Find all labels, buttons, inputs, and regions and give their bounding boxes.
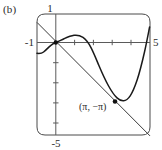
origin-marker-dot — [54, 40, 58, 44]
y-axis-bottom-label: -5 — [51, 137, 61, 149]
x-axis-right-label: 5 — [153, 36, 159, 48]
curve-series — [37, 27, 150, 101]
intersection-point-label: (π, −π) — [79, 101, 106, 113]
intersection-marker-dot — [113, 99, 118, 104]
figure-container: (b) 1 -1 5 — [0, 0, 162, 150]
x-axis-left-label: -1 — [25, 36, 34, 48]
plot-frame — [37, 14, 150, 135]
y-axis-top-label: 1 — [47, 2, 53, 14]
plot-area: 1 -1 5 -5 (π, −π) — [0, 0, 162, 150]
line-series-y-equals-minus-x — [37, 22, 150, 135]
